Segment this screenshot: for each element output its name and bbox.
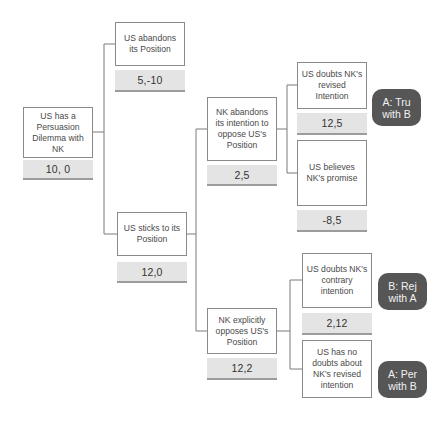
node-root-label: US has a Persuasion Dilemma with NK (27, 111, 89, 155)
payoff-us-doubts-revised: 12,5 (297, 113, 367, 135)
badge-b-rej: B: Rej with A (378, 273, 427, 310)
payoff-nk-opposes: 12,2 (207, 358, 277, 380)
badge-b-rej-label: B: Rej with A (380, 280, 425, 304)
node-us-no-doubts-label: US has no doubts about NK's revised inte… (306, 347, 368, 391)
node-us-sticks-label: US sticks to its Position (121, 223, 183, 245)
node-nk-abandons: NK abandons its intention to oppose US's… (207, 97, 277, 161)
payoff-us-abandons: 5,-10 (115, 70, 185, 92)
payoff-nk-abandons: 2,5 (207, 165, 277, 186)
node-us-sticks: US sticks to its Position (117, 212, 187, 256)
badge-a-per-label: A: Per with B (380, 368, 425, 392)
node-us-abandons-label: US abandons its Position (119, 33, 181, 55)
node-us-no-doubts: US has no doubts about NK's revised inte… (302, 340, 372, 398)
payoff-us-believes: -8,5 (297, 210, 367, 232)
payoff-root: 10, 0 (23, 160, 93, 180)
node-us-abandons: US abandons its Position (115, 22, 185, 66)
node-nk-abandons-label: NK abandons its intention to oppose US's… (211, 107, 273, 151)
node-us-believes-label: US believes NK's promise (301, 162, 363, 184)
node-root: US has a Persuasion Dilemma with NK (23, 107, 93, 158)
node-us-doubts-contrary-label: US doubts NK's contrary intention (306, 264, 368, 297)
badge-a-tru: A: Tru with B (372, 89, 421, 126)
badge-a-per: A: Per with B (378, 361, 427, 398)
node-us-believes: US believes NK's promise (297, 140, 367, 206)
node-us-doubts-contrary: US doubts NK's contrary intention (302, 253, 372, 308)
payoff-us-sticks: 12,0 (117, 262, 187, 283)
node-nk-opposes-label: NK explicitly opposes US's Position (211, 315, 273, 348)
node-us-doubts-revised-label: US doubts NK's revised Intention (301, 69, 363, 102)
payoff-us-doubts-contrary: 2,12 (302, 313, 372, 335)
badge-a-tru-label: A: Tru with B (374, 96, 419, 120)
node-nk-opposes: NK explicitly opposes US's Position (207, 308, 277, 354)
node-us-doubts-revised: US doubts NK's revised Intention (297, 62, 367, 109)
